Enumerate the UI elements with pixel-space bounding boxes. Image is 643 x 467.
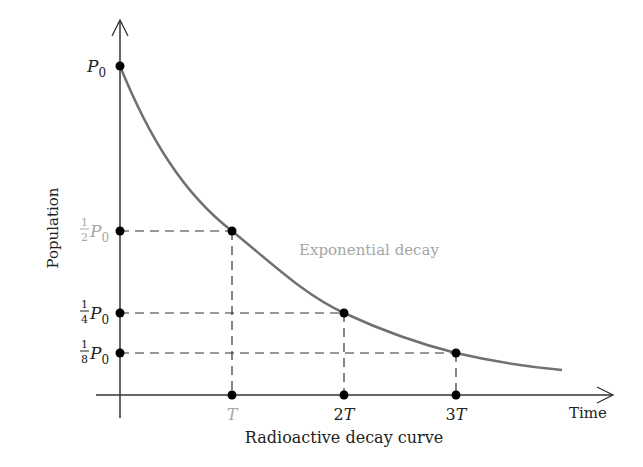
svg-text:1: 1 bbox=[81, 216, 88, 229]
svg-text:P0: P0 bbox=[89, 221, 109, 245]
x-axis-label: Time bbox=[569, 404, 607, 422]
svg-text:1: 1 bbox=[81, 298, 88, 311]
y-tick-p0: P0 bbox=[86, 56, 106, 80]
svg-text:1: 1 bbox=[81, 338, 88, 351]
diagram-caption: Radioactive decay curve bbox=[245, 428, 443, 447]
exponential-decay-curve bbox=[120, 66, 562, 370]
y-axis-label: Population bbox=[44, 187, 62, 268]
x-tick-t: T bbox=[227, 405, 239, 424]
svg-text:8: 8 bbox=[81, 353, 88, 366]
svg-text:P0: P0 bbox=[89, 343, 109, 367]
svg-text:P0: P0 bbox=[89, 303, 109, 327]
y-tick-half-p0: 1 2 P0 bbox=[80, 216, 109, 245]
y-tick-eighth-p0: 1 8 P0 bbox=[80, 338, 109, 367]
curve-label: Exponential decay bbox=[299, 241, 439, 259]
y-tick-quarter-p0: 1 4 P0 bbox=[80, 298, 109, 327]
x-tick-3t: 3T bbox=[446, 405, 468, 424]
decay-diagram: P0 1 2 P0 1 4 P0 1 8 P0 T 2T 3T Time Pop… bbox=[0, 0, 643, 467]
svg-text:4: 4 bbox=[81, 313, 88, 326]
x-tick-2t: 2T bbox=[334, 405, 356, 424]
svg-text:2: 2 bbox=[81, 231, 88, 244]
